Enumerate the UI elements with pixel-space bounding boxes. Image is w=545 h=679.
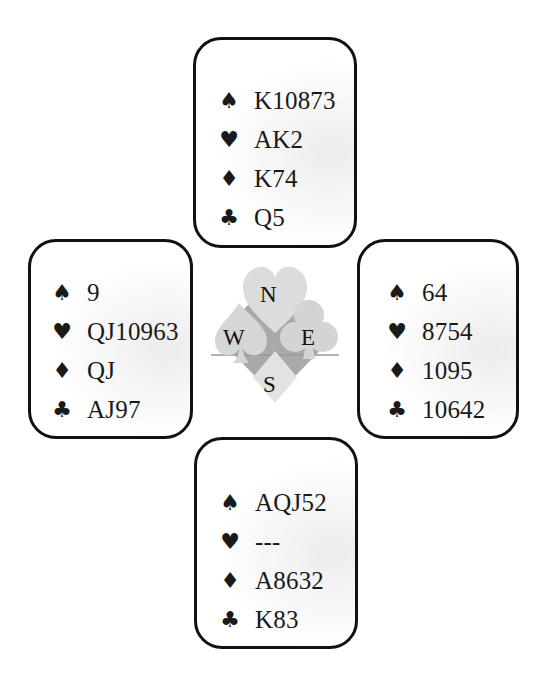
compass-north-label: N xyxy=(260,282,277,308)
east-hearts-row: ♥ 8754 xyxy=(380,312,516,351)
south-hearts-row: ♥ --- xyxy=(213,522,355,561)
west-spades-row: ♠ 9 xyxy=(45,273,190,312)
spade-icon: ♠ xyxy=(212,90,246,112)
east-spades-row: ♠ 64 xyxy=(380,273,516,312)
east-hand: ♠ 64 ♥ 8754 ♦ 1095 ♣ 10642 xyxy=(357,239,519,439)
spade-icon: ♠ xyxy=(213,492,247,514)
north-hearts-row: ♥ AK2 xyxy=(212,120,354,159)
heart-icon: ♥ xyxy=(380,321,414,343)
west-hand: ♠ 9 ♥ QJ10963 ♦ QJ ♣ AJ97 xyxy=(28,239,193,439)
west-clubs: AJ97 xyxy=(87,397,141,422)
south-spades: AQJ52 xyxy=(255,490,327,515)
east-diamonds: 1095 xyxy=(422,358,473,383)
south-hearts: --- xyxy=(255,529,281,554)
compass-south-label: S xyxy=(263,372,276,398)
south-spades-row: ♠ AQJ52 xyxy=(213,483,355,522)
south-clubs: K83 xyxy=(255,607,299,632)
north-clubs: Q5 xyxy=(254,205,285,230)
south-clubs-row: ♣ K83 xyxy=(213,600,355,639)
west-hearts-row: ♥ QJ10963 xyxy=(45,312,190,351)
club-icon: ♣ xyxy=(213,609,247,631)
south-hand: ♠ AQJ52 ♥ --- ♦ A8632 ♣ K83 xyxy=(194,437,358,649)
heart-icon: ♥ xyxy=(212,129,246,151)
north-hearts: AK2 xyxy=(254,127,303,152)
club-icon: ♣ xyxy=(380,399,414,421)
north-diamonds: K74 xyxy=(254,166,298,191)
club-icon: ♣ xyxy=(45,399,79,421)
west-diamonds-row: ♦ QJ xyxy=(45,351,190,390)
west-spades: 9 xyxy=(87,280,100,305)
diamond-icon: ♦ xyxy=(212,168,246,190)
compass-logo: N W E S xyxy=(205,255,345,405)
east-diamonds-row: ♦ 1095 xyxy=(380,351,516,390)
east-clubs: 10642 xyxy=(422,397,486,422)
south-diamonds-row: ♦ A8632 xyxy=(213,561,355,600)
east-spades: 64 xyxy=(422,280,447,305)
heart-icon: ♥ xyxy=(45,321,79,343)
north-spades: K10873 xyxy=(254,88,336,113)
east-clubs-row: ♣ 10642 xyxy=(380,390,516,429)
club-icon: ♣ xyxy=(212,207,246,229)
north-clubs-row: ♣ Q5 xyxy=(212,198,354,237)
spade-icon: ♠ xyxy=(45,282,79,304)
diamond-icon: ♦ xyxy=(45,360,79,382)
north-diamonds-row: ♦ K74 xyxy=(212,159,354,198)
west-clubs-row: ♣ AJ97 xyxy=(45,390,190,429)
east-hearts: 8754 xyxy=(422,319,473,344)
compass-west-label: W xyxy=(223,325,245,351)
south-diamonds: A8632 xyxy=(255,568,324,593)
north-hand: ♠ K10873 ♥ AK2 ♦ K74 ♣ Q5 xyxy=(193,37,357,248)
compass-east-label: E xyxy=(301,325,315,351)
spade-icon: ♠ xyxy=(380,282,414,304)
north-spades-row: ♠ K10873 xyxy=(212,81,354,120)
heart-icon: ♥ xyxy=(213,531,247,553)
diamond-icon: ♦ xyxy=(213,570,247,592)
west-hearts: QJ10963 xyxy=(87,319,179,344)
diamond-icon: ♦ xyxy=(380,360,414,382)
west-diamonds: QJ xyxy=(87,358,115,383)
